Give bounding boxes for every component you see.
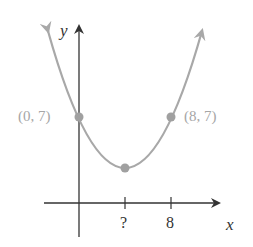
point-label-8-7: (8, 7): [184, 109, 217, 124]
x-axis-label: x: [226, 216, 234, 233]
point-vertex: [121, 164, 130, 173]
x-tick-label-8: 8: [166, 215, 174, 231]
point-label-0-7: (0, 7): [18, 109, 51, 124]
y-axis-label: y: [60, 22, 68, 39]
parabola-figure: y x (0, 7) (8, 7) ? 8: [0, 0, 253, 247]
point-0-7: [75, 113, 84, 122]
point-8-7: [167, 113, 176, 122]
x-tick-label-unknown: ?: [120, 215, 127, 231]
parabola-curve: [48, 31, 202, 168]
